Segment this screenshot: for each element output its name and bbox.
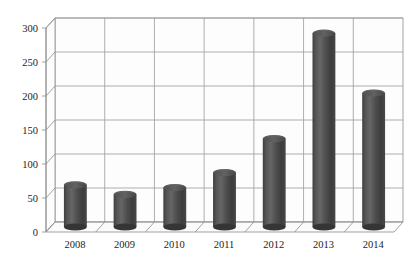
x-tick-label: 2013 [313, 239, 334, 250]
y-tick-label: 150 [22, 125, 38, 136]
bar-chart-3d: 050100150200250300 200820092010201120122… [0, 0, 419, 268]
bar [163, 184, 186, 231]
y-tick-label: 0 [33, 227, 38, 238]
bar [362, 89, 385, 230]
x-tick-label: 2012 [263, 239, 284, 250]
y-tick-label: 50 [28, 193, 39, 204]
y-tick-label: 300 [22, 23, 38, 34]
y-tick-label: 250 [22, 57, 38, 68]
y-tick-label: 100 [22, 159, 38, 170]
bar [114, 191, 137, 231]
x-tick-label: 2008 [64, 239, 85, 250]
y-tick-marks [42, 28, 46, 232]
x-axis-tick-labels: 2008200920102011201220132014 [64, 239, 384, 250]
x-tick-label: 2010 [164, 239, 185, 250]
bar [64, 181, 87, 230]
bar [312, 30, 335, 231]
x-tick-label: 2011 [214, 239, 235, 250]
x-tick-label: 2009 [114, 239, 135, 250]
y-tick-label: 200 [22, 91, 38, 102]
x-tick-label: 2014 [363, 239, 385, 250]
chart-canvas: 050100150200250300 200820092010201120122… [0, 0, 419, 268]
bar [263, 135, 286, 231]
bar [213, 169, 236, 231]
y-axis-tick-labels: 050100150200250300 [22, 23, 38, 238]
